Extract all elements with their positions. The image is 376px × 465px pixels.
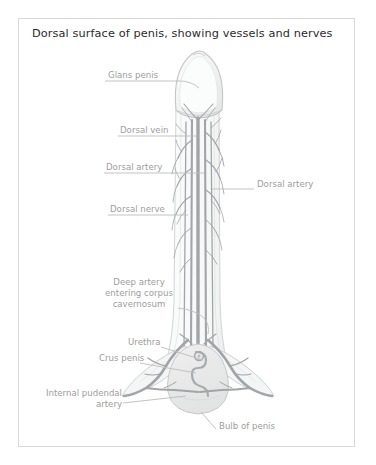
label-dorsal-vein: Dorsal vein <box>120 125 168 136</box>
label-deep-artery-entering-corpus-cavernosum: Deep artery entering corpus cavernosum <box>98 277 180 310</box>
penis-shaft <box>160 104 232 378</box>
label-internal-pudendal-line2: artery <box>44 399 122 410</box>
leader-bulb-of-penis <box>201 412 216 429</box>
label-glans-penis: Glans penis <box>108 70 158 81</box>
label-dorsal-nerve: Dorsal nerve <box>110 204 165 215</box>
label-internal-pudendal-artery: Internal pudendal artery <box>44 388 122 410</box>
label-internal-pudendal-line1: Internal pudendal <box>44 388 122 399</box>
label-deep-artery-line3: cavernosum <box>98 299 180 310</box>
label-deep-artery-line2: entering corpus <box>98 288 180 299</box>
label-bulb-of-penis: Bulb of penis <box>219 421 275 432</box>
label-crus-penis: Crus penis <box>99 353 144 364</box>
label-urethra: Urethra <box>128 337 161 348</box>
label-dorsal-artery-right: Dorsal artery <box>257 179 313 190</box>
label-deep-artery-line1: Deep artery <box>98 277 180 288</box>
label-dorsal-artery-left: Dorsal artery <box>106 162 162 173</box>
